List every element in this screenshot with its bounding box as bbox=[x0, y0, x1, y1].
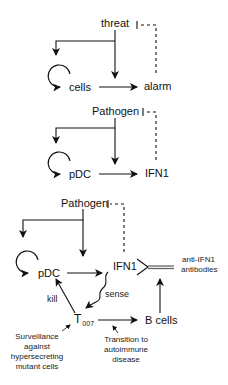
kill-arrow bbox=[56, 279, 75, 313]
t007-subscript: 007 bbox=[82, 320, 94, 327]
pathogen-to-pdc-arrow bbox=[56, 118, 115, 143]
transition-pointer bbox=[113, 326, 118, 333]
t007-main: T bbox=[74, 312, 81, 326]
antibody-icon bbox=[137, 259, 174, 275]
note-line: Transition to bbox=[96, 335, 156, 345]
note-line: disease bbox=[96, 355, 156, 365]
note-surveillance: Surveillance against hypersecreting muta… bbox=[2, 332, 72, 372]
surveillance-pointer bbox=[62, 325, 70, 331]
node-b-cells: B cells bbox=[145, 315, 177, 326]
antibody-label-line1: anti-IFN1 bbox=[182, 256, 215, 264]
note-line: hypersecreting bbox=[2, 352, 72, 362]
edge-label-sense: sense bbox=[105, 290, 129, 299]
node-ifn1: IFN1 bbox=[145, 168, 169, 179]
pathogen-to-pdc-arrow bbox=[23, 209, 83, 237]
node-ifn1: IFN1 bbox=[113, 261, 137, 272]
pdc-self-loop bbox=[16, 251, 38, 273]
node-pdc: pDC bbox=[38, 268, 60, 279]
ifn1-inhibits-pathogen bbox=[110, 204, 124, 252]
cells-self-loop bbox=[48, 65, 70, 87]
node-threat: threat bbox=[101, 18, 129, 29]
alarm-inhibits-threat bbox=[139, 25, 156, 73]
node-cells: cells bbox=[69, 82, 91, 93]
node-pdc: pDC bbox=[69, 169, 91, 180]
note-line: autoimmune bbox=[96, 345, 156, 355]
node-pathogen: Pathogen bbox=[92, 106, 139, 117]
note-line: mutant cells bbox=[2, 362, 72, 372]
diagram-canvas: threat cells alarm Pathogen pDC IFN1 Pat… bbox=[0, 0, 228, 385]
node-t007: T007 bbox=[74, 313, 94, 327]
pdc-self-loop bbox=[48, 152, 70, 174]
note-line: against bbox=[2, 342, 72, 352]
diagram-edges bbox=[0, 0, 228, 385]
node-alarm: alarm bbox=[144, 81, 172, 92]
threat-to-cells-arrow bbox=[56, 41, 115, 55]
antibody-label-line2: antibodies bbox=[181, 266, 217, 274]
note-line: Surveillance bbox=[2, 332, 72, 342]
edge-label-kill: kill bbox=[47, 295, 58, 304]
panel-2-edges bbox=[48, 108, 156, 174]
node-pathogen: Pathogen bbox=[61, 198, 108, 209]
panel-1-edges bbox=[48, 21, 156, 87]
note-transition: Transition to autoimmune disease bbox=[96, 335, 156, 365]
ifn1-inhibits-pathogen bbox=[145, 112, 156, 160]
